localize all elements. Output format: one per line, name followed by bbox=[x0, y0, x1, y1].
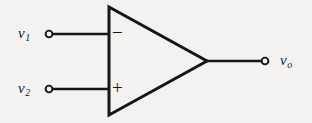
label-output-vo-symbol: v bbox=[280, 52, 287, 68]
label-input-v2-subscript: 2 bbox=[25, 87, 31, 98]
schematic-drawing bbox=[0, 0, 312, 123]
noninverting-input-terminal-node[interactable] bbox=[46, 86, 53, 93]
label-input-v2-symbol: v bbox=[18, 80, 25, 96]
label-input-v1: v1 bbox=[18, 26, 30, 43]
label-output-vo: vo bbox=[280, 53, 292, 70]
label-output-vo-subscript: o bbox=[287, 59, 293, 70]
label-input-v1-symbol: v bbox=[18, 25, 25, 41]
label-input-v1-subscript: 1 bbox=[25, 32, 31, 43]
inverting-input-terminal-node[interactable] bbox=[46, 31, 53, 38]
inverting-minus-sign: − bbox=[112, 23, 123, 42]
output-terminal-node[interactable] bbox=[262, 58, 269, 65]
op-amp-figure: − + v1 v2 vo bbox=[0, 0, 312, 123]
label-input-v2: v2 bbox=[18, 81, 30, 98]
amplifier-triangle-body bbox=[109, 7, 207, 115]
noninverting-plus-sign: + bbox=[112, 78, 123, 97]
